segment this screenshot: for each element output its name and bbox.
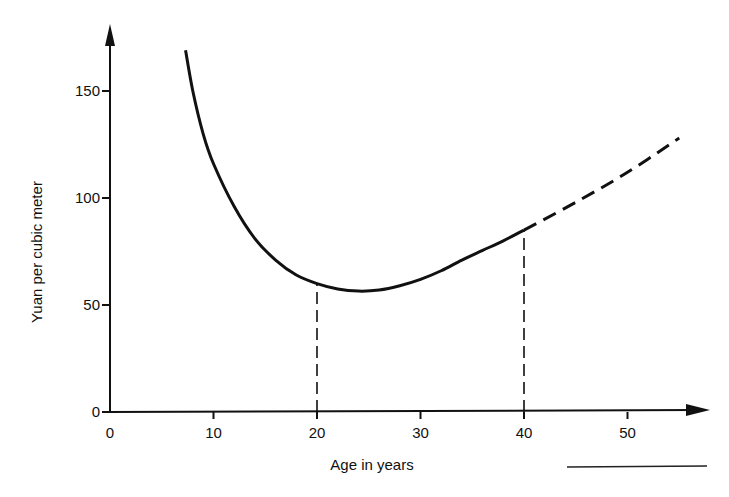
x-tick-label: 50 [619,424,636,441]
extrapolation-line [524,138,679,230]
decorative-underline [567,466,707,467]
chart: 01020304050050100150 Age in years Yuan p… [0,0,729,497]
x-axis-arrow-icon [686,404,710,416]
x-axis-title: Age in years [330,456,413,473]
ticks: 01020304050050100150 [75,82,636,441]
x-tick-label: 20 [309,424,326,441]
y-tick-label: 50 [83,296,100,313]
cost-curve-line [186,50,524,291]
data-series [186,50,680,291]
x-tick-label: 40 [516,424,533,441]
y-tick-label: 0 [92,403,100,420]
y-axis-title: Yuan per cubic meter [28,181,45,323]
y-tick-label: 150 [75,82,100,99]
y-tick-label: 100 [75,189,100,206]
axes [105,24,710,416]
guide-lines [317,230,524,412]
y-axis-arrow-icon [105,24,115,46]
x-tick-label: 30 [412,424,429,441]
x-tick-label: 10 [205,424,222,441]
x-tick-label: 0 [106,424,114,441]
x-axis-line [106,410,696,412]
